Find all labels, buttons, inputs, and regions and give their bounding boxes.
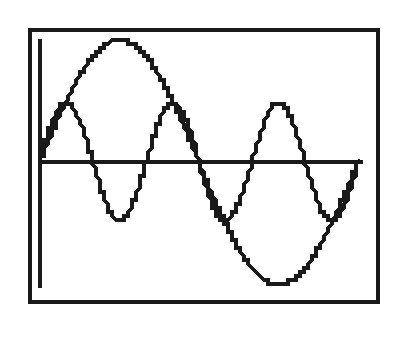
graph-plot — [0, 0, 399, 340]
